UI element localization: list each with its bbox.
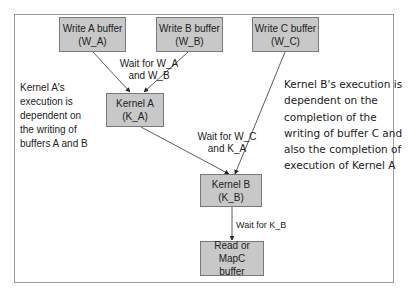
- note-line: dependent on: [20, 109, 100, 123]
- node-sublabel: (K_B): [218, 191, 244, 204]
- edge-label-line: Wait for K_B: [236, 219, 286, 231]
- note-line: completion of the: [284, 109, 404, 125]
- node-sublabel: (W_A): [78, 35, 106, 48]
- note-line: the writing of: [20, 123, 100, 137]
- node-sublabel: buffer: [219, 265, 244, 278]
- note-line: buffers A and B: [20, 137, 100, 151]
- node-label: Write A buffer: [63, 22, 123, 35]
- note-line: execution of Kernel A: [284, 157, 404, 173]
- node-write-b-buffer: Write B buffer (W_B): [156, 17, 223, 52]
- note-line: writing of buffer C and: [284, 125, 404, 141]
- edge-label-line: and K_A: [192, 143, 262, 155]
- edge-label-line: Wait for W_A: [109, 58, 189, 70]
- note-line: dependent on the: [284, 92, 404, 108]
- edge-wc-to-kb: [235, 52, 285, 174]
- node-label: Read or MapC: [201, 239, 263, 265]
- node-sublabel: (W_C): [271, 35, 300, 48]
- node-write-a-buffer: Write A buffer (W_A): [59, 17, 126, 52]
- edge-label-line: Wait for W_C: [192, 131, 262, 143]
- edge-label-line: and W_B: [109, 70, 189, 82]
- node-sublabel: (K_A): [122, 110, 148, 123]
- node-label: Kernel A: [116, 97, 154, 110]
- node-label: Write B buffer: [159, 22, 220, 35]
- note-line: execution is: [20, 95, 100, 109]
- note-line: Kernel B's execution is: [284, 76, 404, 92]
- node-write-c-buffer: Write C buffer (W_C): [252, 17, 319, 52]
- node-label: Kernel B: [212, 178, 250, 191]
- note-line: Kernel A's: [20, 81, 100, 95]
- note-kernel-a-dependency: Kernel A's execution is dependent on the…: [20, 81, 100, 151]
- node-read-mapc-buffer: Read or MapC buffer: [200, 241, 264, 276]
- node-kernel-a: Kernel A (K_A): [106, 93, 164, 127]
- note-kernel-b-dependency: Kernel B's execution is dependent on the…: [284, 76, 404, 174]
- edge-label-wait-wa-wb: Wait for W_A and W_B: [109, 58, 189, 82]
- node-sublabel: (W_B): [175, 35, 203, 48]
- node-label: Write C buffer: [255, 22, 316, 35]
- edge-label-wait-kb: Wait for K_B: [236, 219, 286, 231]
- node-kernel-b: Kernel B (K_B): [200, 174, 262, 207]
- edge-label-wait-wc-ka: Wait for W_C and K_A: [192, 131, 262, 155]
- note-line: also the completion of: [284, 141, 404, 157]
